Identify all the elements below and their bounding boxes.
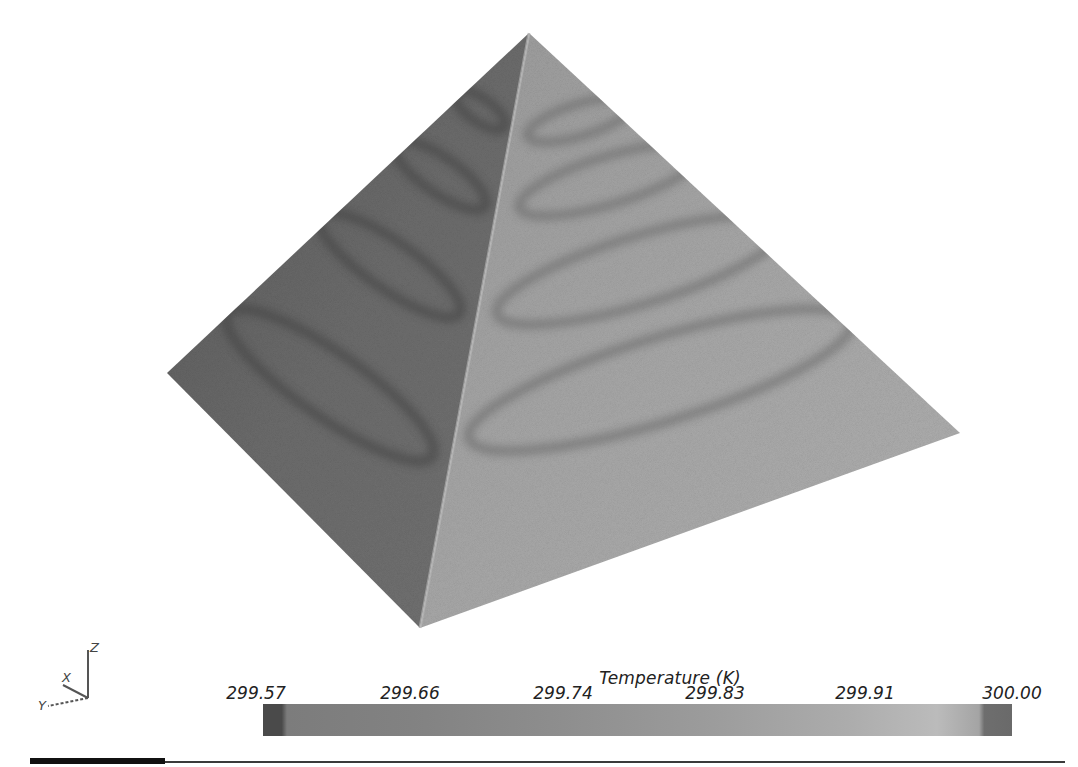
colorbar bbox=[263, 704, 1012, 736]
axes-triad-icon: Z X Y bbox=[30, 640, 110, 720]
colorbar-tick: 299.57 bbox=[226, 683, 285, 703]
colorbar-tick: 299.74 bbox=[533, 683, 592, 703]
colorbar-tick: 299.83 bbox=[685, 683, 744, 703]
bottom-divider bbox=[30, 761, 1065, 763]
colorbar-tick: 299.91 bbox=[835, 683, 894, 703]
pyramid-render bbox=[0, 0, 1078, 767]
colorbar-tick: 299.66 bbox=[380, 683, 439, 703]
axis-label-x: X bbox=[61, 670, 72, 685]
axis-label-z: Z bbox=[89, 640, 100, 655]
bottom-divider-tab bbox=[30, 758, 165, 764]
colorbar-title: Temperature (K) bbox=[560, 668, 780, 688]
colorbar-tick: 300.00 bbox=[982, 683, 1041, 703]
axis-label-y: Y bbox=[38, 698, 47, 713]
